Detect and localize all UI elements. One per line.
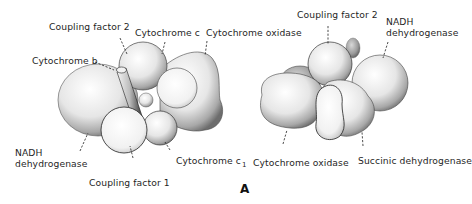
label-nadh-left-line2: dehydrogenase xyxy=(15,158,87,169)
panel-label: A xyxy=(240,182,249,196)
label-coupling-factor-2-right: Coupling factor 2 xyxy=(297,9,378,20)
label-cytochrome-c1: Cytochrome c1 xyxy=(176,155,246,168)
label-nadh-right-line2: dehydrogenase xyxy=(386,27,458,38)
label-nadh-right-line1: NADH xyxy=(386,16,414,27)
cytochrome-c-shape xyxy=(157,68,197,108)
cytochrome-c1-shape xyxy=(143,111,177,145)
label-cytochrome-oxidase-left: Cytochrome oxidase xyxy=(206,27,302,38)
cytochrome-oxidase-shape-right xyxy=(260,73,322,128)
label-succinic-dehydrogenase: Succinic dehydrogenase xyxy=(358,155,472,166)
label-cytochrome-c1-subscript: 1 xyxy=(242,161,247,169)
coupling-factor-1-shape xyxy=(101,107,147,153)
label-coupling-factor-2-left: Coupling factor 2 xyxy=(49,21,130,32)
label-cytochrome-b: Cytochrome b xyxy=(32,55,98,66)
label-cytochrome-c: Cytochrome c xyxy=(135,27,200,38)
label-cytochrome-c1-main: Cytochrome c xyxy=(176,155,241,166)
right-complex xyxy=(260,38,408,140)
label-nadh-left-line1: NADH xyxy=(15,147,43,158)
label-cytochrome-oxidase-right: Cytochrome oxidase xyxy=(253,157,349,168)
label-coupling-factor-1: Coupling factor 1 xyxy=(89,177,170,188)
